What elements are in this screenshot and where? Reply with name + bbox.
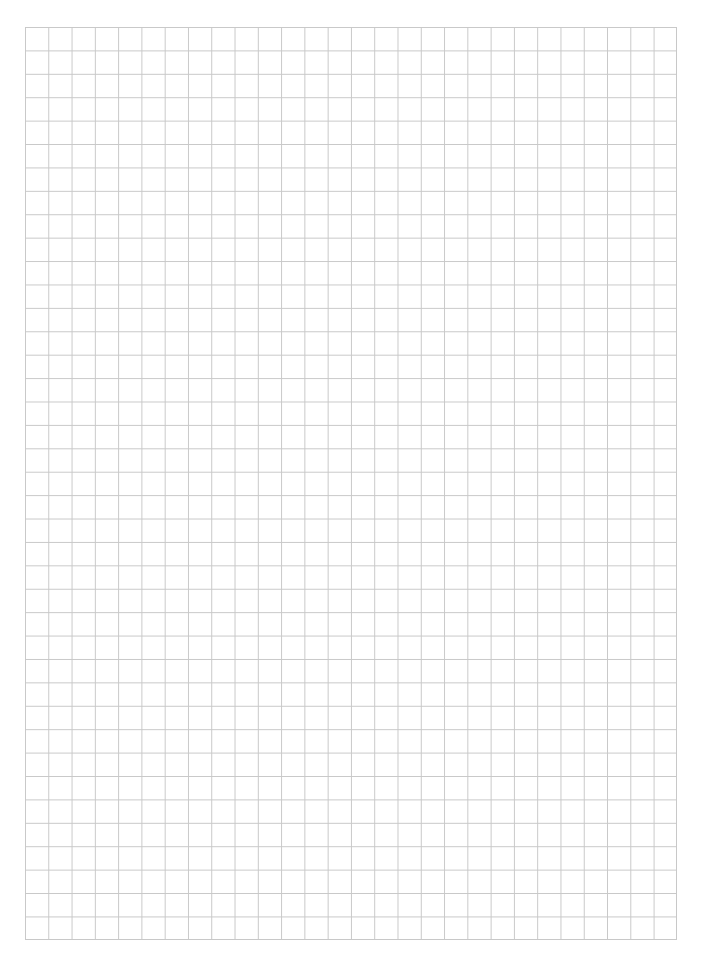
graph-paper-grid <box>25 27 677 940</box>
